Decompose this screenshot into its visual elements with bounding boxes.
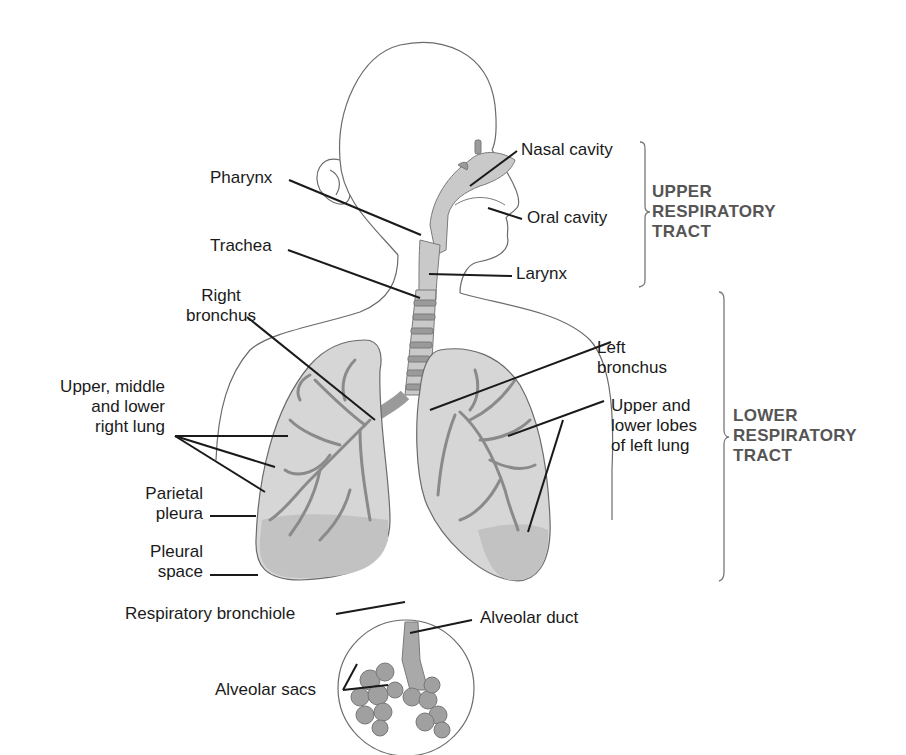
label-line: of left lung bbox=[611, 436, 697, 456]
label-respiratory-bronchiole: Respiratory bronchiole bbox=[125, 604, 295, 624]
label-parietal-pleura: Parietal pleura bbox=[110, 484, 203, 524]
label-line: bronchus bbox=[597, 358, 667, 378]
label-right-bronchus: Right bronchus bbox=[185, 286, 257, 326]
region-line: UPPER bbox=[652, 182, 776, 202]
label-line: Left bbox=[597, 338, 667, 358]
label-alveolar-sacs: Alveolar sacs bbox=[215, 680, 316, 700]
label-nasal-cavity: Nasal cavity bbox=[521, 140, 613, 160]
label-right-lung: Upper, middle and lower right lung bbox=[30, 377, 165, 437]
label-line: Upper and bbox=[611, 396, 697, 416]
label-line: bronchus bbox=[185, 306, 257, 326]
label-oral-cavity: Oral cavity bbox=[527, 208, 607, 228]
region-line: RESPIRATORY bbox=[652, 202, 776, 222]
label-line: Pleural bbox=[110, 542, 203, 562]
label-left-bronchus: Left bronchus bbox=[597, 338, 667, 378]
label-line: pleura bbox=[110, 504, 203, 524]
label-trachea: Trachea bbox=[210, 236, 272, 256]
label-line: Upper, middle bbox=[30, 377, 165, 397]
label-alveolar-duct: Alveolar duct bbox=[480, 608, 578, 628]
label-line: right lung bbox=[30, 417, 165, 437]
label-left-lung: Upper and lower lobes of left lung bbox=[611, 396, 697, 456]
label-line: Right bbox=[185, 286, 257, 306]
label-larynx: Larynx bbox=[516, 264, 567, 284]
region-lower-respiratory-tract: LOWER RESPIRATORY TRACT bbox=[733, 406, 857, 466]
region-line: LOWER bbox=[733, 406, 857, 426]
region-upper-respiratory-tract: UPPER RESPIRATORY TRACT bbox=[652, 182, 776, 242]
label-line: lower lobes bbox=[611, 416, 697, 436]
left-lung bbox=[417, 349, 550, 581]
label-pharynx: Pharynx bbox=[210, 168, 272, 188]
label-pleural-space: Pleural space bbox=[110, 542, 203, 582]
region-line: TRACT bbox=[733, 446, 857, 466]
region-line: TRACT bbox=[652, 222, 776, 242]
label-line: space bbox=[110, 562, 203, 582]
region-line: RESPIRATORY bbox=[733, 426, 857, 446]
label-line: Parietal bbox=[110, 484, 203, 504]
right-lung bbox=[256, 340, 390, 580]
label-line: and lower bbox=[30, 397, 165, 417]
